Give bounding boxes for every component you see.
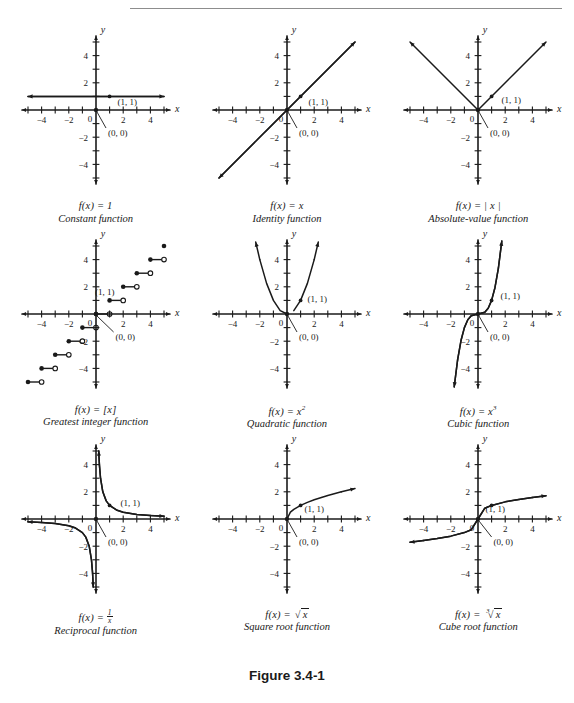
svg-text:0: 0 bbox=[470, 114, 475, 124]
plot-quadratic: −4−224−4−2240xy(1, 1)(0, 0) bbox=[197, 226, 377, 408]
svg-text:(0, 0): (0, 0) bbox=[299, 537, 319, 547]
svg-text:−2: −2 bbox=[446, 524, 456, 534]
svg-text:−4: −4 bbox=[36, 115, 46, 125]
svg-text:2: 2 bbox=[312, 115, 317, 125]
svg-text:y: y bbox=[291, 227, 297, 238]
svg-text:2: 2 bbox=[312, 319, 317, 329]
svg-text:y: y bbox=[482, 433, 488, 444]
svg-text:−2: −2 bbox=[64, 524, 74, 534]
svg-text:−4: −4 bbox=[269, 363, 279, 373]
svg-text:0: 0 bbox=[279, 523, 284, 533]
svg-text:2: 2 bbox=[466, 487, 471, 497]
plot-cubic: −4−224−4−2240xy(1, 1)(0, 0) bbox=[388, 226, 568, 408]
function-name-reciprocal: Reciprocal function bbox=[54, 625, 137, 638]
function-panel-constant: −4−224−4−2240xy(1, 1)(0, 0)f(x) = 1Const… bbox=[0, 22, 191, 226]
svg-text:2: 2 bbox=[121, 115, 126, 125]
svg-text:−2: −2 bbox=[461, 541, 471, 551]
svg-text:−4: −4 bbox=[228, 319, 238, 329]
svg-text:(0, 0): (0, 0) bbox=[299, 332, 319, 342]
svg-text:4: 4 bbox=[530, 115, 535, 125]
svg-text:4: 4 bbox=[274, 51, 279, 61]
svg-text:4: 4 bbox=[530, 319, 535, 329]
plot-constant: −4−224−4−2240xy(1, 1)(0, 0) bbox=[6, 22, 186, 204]
svg-text:−4: −4 bbox=[36, 524, 46, 534]
function-panel-quadratic: −4−224−4−2240xy(1, 1)(0, 0)f(x) = x2Quad… bbox=[191, 226, 382, 431]
figure-caption: Figure 3.4-1 bbox=[0, 668, 574, 683]
svg-text:(0, 0): (0, 0) bbox=[490, 332, 510, 342]
gallery-row: −4−224−4−2240xy(1, 1)(0, 0)f(x) = [x]Gre… bbox=[0, 226, 574, 431]
svg-text:−4: −4 bbox=[461, 363, 471, 373]
svg-text:(0, 0): (0, 0) bbox=[299, 128, 319, 138]
svg-text:2: 2 bbox=[274, 487, 279, 497]
svg-text:(1, 1): (1, 1) bbox=[309, 97, 329, 107]
svg-text:4: 4 bbox=[339, 524, 344, 534]
svg-text:−2: −2 bbox=[255, 319, 265, 329]
coordinate-plane-reciprocal: −4−224−4−2240xy(1, 1)(0, 0) bbox=[6, 431, 186, 613]
plot-identity: −4−224−4−2240xy(1, 1)(0, 0) bbox=[197, 22, 377, 204]
svg-text:0: 0 bbox=[279, 318, 284, 328]
gallery-row: −4−224−4−2240xy(1, 1)(0, 0)f(x) = 1xReci… bbox=[0, 431, 574, 638]
svg-text:−4: −4 bbox=[36, 319, 46, 329]
svg-text:(1, 1): (1, 1) bbox=[486, 504, 506, 514]
svg-text:−4: −4 bbox=[269, 568, 279, 578]
plot-absolute-value: −4−224−4−2240xy(1, 1)(0, 0) bbox=[388, 22, 568, 204]
function-name-absolute-value: Absolute-value function bbox=[428, 213, 528, 226]
svg-text:4: 4 bbox=[466, 51, 471, 61]
svg-text:(1, 1): (1, 1) bbox=[308, 294, 328, 304]
svg-text:y: y bbox=[482, 227, 488, 238]
svg-text:−2: −2 bbox=[269, 133, 279, 143]
svg-text:−2: −2 bbox=[255, 524, 265, 534]
function-gallery-grid: −4−224−4−2240xy(1, 1)(0, 0)f(x) = 1Const… bbox=[0, 22, 574, 638]
svg-text:0: 0 bbox=[470, 523, 475, 533]
svg-text:−2: −2 bbox=[255, 115, 265, 125]
gallery-row: −4−224−4−2240xy(1, 1)(0, 0)f(x) = 1Const… bbox=[0, 22, 574, 226]
svg-text:(1, 1): (1, 1) bbox=[117, 97, 137, 107]
svg-text:−4: −4 bbox=[269, 160, 279, 170]
svg-text:4: 4 bbox=[530, 524, 535, 534]
svg-text:2: 2 bbox=[274, 282, 279, 292]
svg-text:x: x bbox=[174, 307, 180, 318]
plot-square-root: −4−224−4−2240xy(1, 1)(0, 0) bbox=[197, 431, 377, 613]
svg-text:4: 4 bbox=[339, 319, 344, 329]
svg-text:0: 0 bbox=[87, 318, 92, 328]
coordinate-plane-cube-root: −4−224−4−2240xy(1, 1)(0, 0) bbox=[388, 431, 568, 613]
svg-text:−2: −2 bbox=[461, 133, 471, 143]
svg-text:−4: −4 bbox=[78, 160, 88, 170]
coordinate-plane-greatest-integer: −4−224−4−2240xy(1, 1)(0, 0) bbox=[6, 226, 186, 408]
svg-text:y: y bbox=[482, 24, 488, 35]
svg-text:x: x bbox=[174, 512, 180, 523]
svg-text:4: 4 bbox=[148, 115, 153, 125]
svg-text:(1, 1): (1, 1) bbox=[120, 498, 140, 508]
svg-text:(1, 1): (1, 1) bbox=[502, 95, 521, 105]
svg-text:−4: −4 bbox=[228, 524, 238, 534]
svg-text:(1, 1): (1, 1) bbox=[501, 291, 520, 301]
coordinate-plane-absolute-value: −4−224−4−2240xy(1, 1)(0, 0) bbox=[388, 22, 568, 204]
svg-text:y: y bbox=[291, 24, 297, 35]
function-name-identity: Identity function bbox=[252, 213, 321, 226]
svg-text:x: x bbox=[365, 512, 371, 523]
function-name-constant: Constant function bbox=[58, 213, 133, 226]
svg-text:0: 0 bbox=[470, 318, 475, 328]
svg-text:2: 2 bbox=[121, 524, 126, 534]
svg-text:0: 0 bbox=[279, 114, 284, 124]
svg-text:4: 4 bbox=[83, 460, 88, 470]
svg-text:y: y bbox=[99, 227, 105, 238]
svg-text:−2: −2 bbox=[64, 319, 74, 329]
svg-text:0: 0 bbox=[87, 114, 92, 124]
plot-reciprocal: −4−224−4−2240xy(1, 1)(0, 0) bbox=[6, 431, 186, 613]
svg-text:2: 2 bbox=[503, 115, 508, 125]
svg-text:x: x bbox=[174, 103, 180, 114]
function-name-square-root: Square root function bbox=[244, 621, 330, 634]
function-panel-identity: −4−224−4−2240xy(1, 1)(0, 0)f(x) = xIdent… bbox=[191, 22, 382, 226]
svg-text:−4: −4 bbox=[419, 319, 429, 329]
svg-text:4: 4 bbox=[466, 255, 471, 265]
svg-text:−2: −2 bbox=[64, 115, 74, 125]
svg-text:2: 2 bbox=[503, 524, 508, 534]
coordinate-plane-cubic: −4−224−4−2240xy(1, 1)(0, 0) bbox=[388, 226, 568, 408]
svg-text:(0, 0): (0, 0) bbox=[490, 128, 510, 138]
function-panel-reciprocal: −4−224−4−2240xy(1, 1)(0, 0)f(x) = 1xReci… bbox=[0, 431, 191, 638]
svg-text:(1, 1): (1, 1) bbox=[95, 287, 115, 297]
panel-caption-quadratic: f(x) = x2Quadratic function bbox=[247, 404, 327, 431]
svg-text:−4: −4 bbox=[461, 568, 471, 578]
svg-text:(0, 0): (0, 0) bbox=[115, 332, 135, 342]
